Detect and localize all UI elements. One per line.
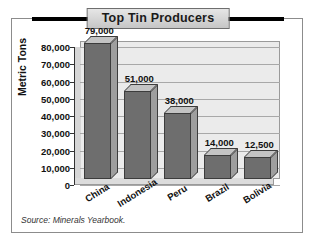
bar-value-label: 12,500 <box>245 139 274 150</box>
y-axis-tick-mark <box>70 133 74 134</box>
bar-value-label: 14,000 <box>205 137 234 148</box>
bar-value-label: 38,000 <box>165 95 194 106</box>
y-axis-tick-label: 80,000 <box>41 42 70 53</box>
y-axis-tick-mark <box>70 116 74 117</box>
bar-value-label: 51,000 <box>125 73 154 84</box>
bar[interactable]: 12,500Bolivia <box>244 157 271 179</box>
bar[interactable]: 14,000Brazil <box>204 155 231 179</box>
y-axis-tick-label: 30,000 <box>41 128 70 139</box>
y-axis-tick-label: 60,000 <box>41 76 70 87</box>
title-rule-right <box>220 17 284 21</box>
y-axis-line <box>74 47 75 185</box>
bar-side-face <box>151 84 158 179</box>
y-axis-tick-mark <box>70 168 74 169</box>
y-axis-tick-label: 10,000 <box>41 162 70 173</box>
y-axis-title: Metric Tons <box>16 17 28 117</box>
y-axis-tick-mark <box>70 64 74 65</box>
bar[interactable]: 38,000Peru <box>164 113 191 179</box>
bar-value-label: 79,000 <box>85 25 114 36</box>
y-axis-tick-label: 20,000 <box>41 145 70 156</box>
chart-title-band: Top Tin Producers <box>12 8 304 30</box>
bar[interactable]: 51,000Indonesia <box>124 91 151 179</box>
source-note: Source: Minerals Yearbook. <box>21 215 125 225</box>
y-axis-tick-mark <box>70 82 74 83</box>
bar-front-face <box>164 113 191 179</box>
y-axis-tick-label: 40,000 <box>41 111 70 122</box>
bar-front-face <box>244 157 271 179</box>
y-axis-tick-mark <box>70 99 74 100</box>
bar-side-face <box>111 36 118 179</box>
bar[interactable]: 79,000China <box>84 43 111 179</box>
bar-front-face <box>124 91 151 179</box>
chart-figure: Top Tin Producers Metric Tons 80,00070,0… <box>11 18 303 233</box>
bar-side-face <box>191 106 198 179</box>
bar-front-face <box>204 155 231 179</box>
bar-front-face <box>84 43 111 179</box>
y-axis-tick-label: 70,000 <box>41 59 70 70</box>
y-axis-tick-mark <box>70 47 74 48</box>
y-axis-tick-mark <box>70 185 74 186</box>
plot-area: 80,00070,00060,00050,00040,00030,00020,0… <box>74 41 280 185</box>
y-axis-tick-label: 50,000 <box>41 93 70 104</box>
y-axis-tick-mark <box>70 151 74 152</box>
